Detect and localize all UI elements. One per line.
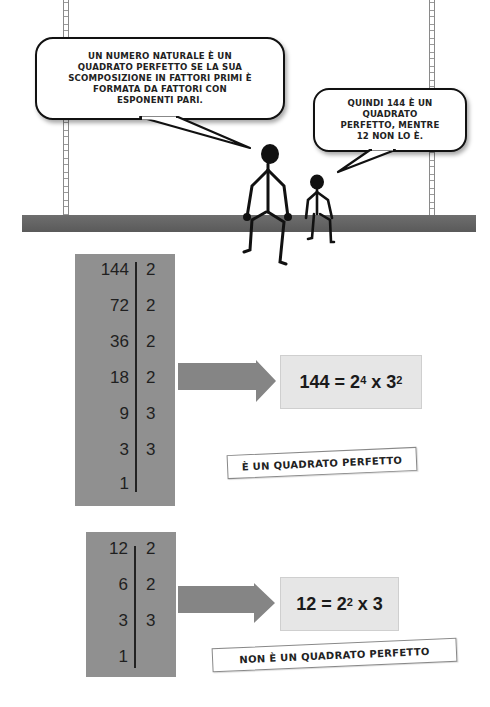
arrow-right-icon <box>178 583 278 623</box>
dividend: 72 <box>110 296 129 316</box>
arrow-right-icon <box>178 360 278 402</box>
table-row: 3 3 <box>86 611 176 635</box>
formula-exponent: 2 <box>396 374 402 386</box>
child-stick-figure <box>306 175 334 243</box>
table-row: 36 2 <box>75 332 175 356</box>
table-row: 18 2 <box>75 368 175 392</box>
prime-factor: 2 <box>146 539 155 559</box>
caption-text: È UN QUADRATO PERFETTO <box>242 454 403 472</box>
caption-not-perfect-square: NON È UN QUADRATO PERFETTO <box>212 638 458 673</box>
formula-mid: x 3 <box>353 594 383 615</box>
result-box-144: 144 = 24 x 32 <box>280 355 422 409</box>
formula-exponent: 2 <box>347 596 353 608</box>
dividend: 3 <box>120 440 129 460</box>
dividend: 1 <box>119 647 128 667</box>
dividend: 1 <box>120 474 129 494</box>
dividend: 18 <box>110 368 129 388</box>
prime-factor: 3 <box>146 611 155 631</box>
factor-table-144: 144 2 72 2 36 2 18 2 9 3 3 3 1 <box>75 254 175 506</box>
formula-base: 12 = 2 <box>296 594 347 615</box>
adult-stick-figure <box>244 144 291 264</box>
table-row: 6 2 <box>86 575 176 599</box>
prime-factor: 3 <box>146 440 155 460</box>
result-box-12: 12 = 22 x 3 <box>280 577 399 631</box>
formula-mid: x 3 <box>366 372 396 393</box>
prime-factor: 2 <box>146 296 155 316</box>
table-row: 1 <box>86 647 176 671</box>
prime-factor: 3 <box>146 404 155 424</box>
formula-base: 144 = 2 <box>300 372 361 393</box>
formula-exponent: 4 <box>360 374 366 386</box>
prime-factor: 2 <box>146 575 155 595</box>
table-row: 12 2 <box>86 539 176 563</box>
stick-figures-and-tails <box>0 0 490 280</box>
dividend: 9 <box>120 404 129 424</box>
caption-text: NON È UN QUADRATO PERFETTO <box>239 645 430 664</box>
dividend: 36 <box>110 332 129 352</box>
table-row: 9 3 <box>75 404 175 428</box>
dividend: 12 <box>109 539 128 559</box>
prime-factor: 2 <box>146 368 155 388</box>
dividend: 6 <box>119 575 128 595</box>
dividend: 3 <box>119 611 128 631</box>
factor-table-12: 12 2 6 2 3 3 1 <box>86 532 176 677</box>
prime-factor: 2 <box>146 332 155 352</box>
caption-perfect-square: È UN QUADRATO PERFETTO <box>227 447 418 479</box>
table-row: 72 2 <box>75 296 175 320</box>
table-row: 1 <box>75 474 175 498</box>
table-row: 3 3 <box>75 440 175 464</box>
